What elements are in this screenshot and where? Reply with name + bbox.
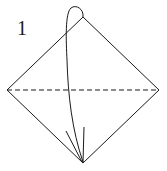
arrowhead-right-icon bbox=[83, 127, 84, 162]
step-number: 1 bbox=[17, 18, 27, 38]
origami-diagram: 1 bbox=[0, 0, 167, 171]
fold-arrow bbox=[66, 7, 83, 162]
arrowhead-left-icon bbox=[66, 131, 82, 162]
